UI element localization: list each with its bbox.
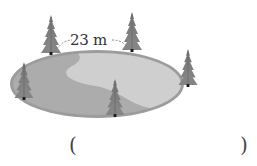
answer-blank[interactable] — [84, 136, 234, 156]
answer-open-paren: ( — [69, 133, 77, 157]
tree-icon — [41, 15, 61, 55]
answer-close-paren: ) — [240, 133, 248, 157]
tree-icon — [179, 49, 198, 87]
tree-icon — [122, 12, 142, 52]
distance-label: 23 m — [70, 31, 107, 49]
